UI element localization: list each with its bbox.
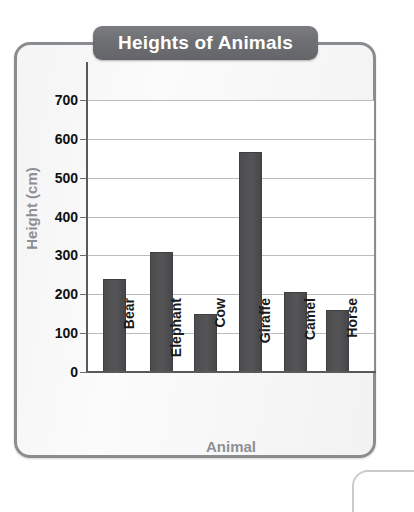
gridline bbox=[88, 294, 374, 295]
page-corner-decoration bbox=[352, 470, 414, 512]
y-tick-label: 600 bbox=[18, 132, 78, 146]
x-tick-label-bear: Bear bbox=[121, 298, 137, 378]
y-axis-tick bbox=[80, 372, 87, 373]
gridline bbox=[88, 100, 374, 101]
gridline bbox=[88, 178, 374, 179]
y-axis-tick bbox=[80, 333, 87, 334]
y-axis-tick bbox=[80, 178, 87, 179]
x-axis-title: Animal bbox=[88, 438, 374, 455]
y-axis-tick bbox=[80, 100, 87, 101]
y-axis-tick bbox=[80, 294, 87, 295]
y-axis-tick bbox=[80, 139, 87, 140]
y-tick-label: 0 bbox=[18, 365, 78, 379]
y-axis-title: Height (cm) bbox=[23, 149, 40, 269]
x-tick-label-camel: Camel bbox=[302, 298, 318, 378]
x-tick-label-cow: Cow bbox=[212, 298, 228, 378]
y-tick-label: 700 bbox=[18, 93, 78, 107]
gridline bbox=[88, 139, 374, 140]
chart-title-banner: Heights of Animals bbox=[93, 26, 318, 60]
y-tick-label: 200 bbox=[18, 287, 78, 301]
gridline bbox=[88, 255, 374, 256]
chart-title: Heights of Animals bbox=[118, 32, 293, 54]
x-tick-label-horse: Horse bbox=[344, 298, 360, 378]
y-axis-tick bbox=[80, 255, 87, 256]
y-axis-tick bbox=[80, 217, 87, 218]
gridline bbox=[88, 217, 374, 218]
x-tick-label-elephant: Elephant bbox=[168, 298, 184, 378]
y-tick-label: 100 bbox=[18, 326, 78, 340]
x-tick-label-giraffe: Giraffe bbox=[257, 298, 273, 378]
